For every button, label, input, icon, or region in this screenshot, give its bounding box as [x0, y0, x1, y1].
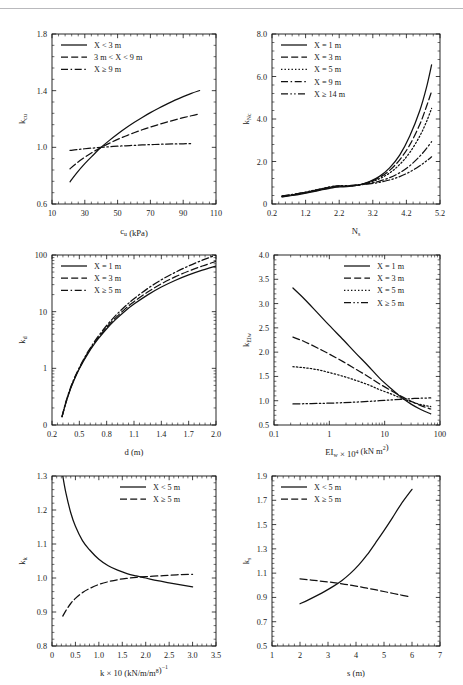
y-tick-label: 1.0 — [37, 574, 47, 583]
y-tick-label: 0.5 — [257, 642, 267, 651]
series-line — [282, 65, 432, 197]
legend-label: X ≥ 5 m — [314, 495, 342, 504]
y-axis-title: kd — [17, 336, 28, 343]
chart-kk: 00.51.01.52.02.53.03.50.80.91.01.11.21.3… — [14, 464, 229, 685]
chart-ks: 12345670.50.70.91.11.31.51.71.9X < 5 mX … — [238, 464, 453, 685]
y-axis-title: kEIw — [241, 332, 252, 347]
y-tick-label: 2.5 — [259, 324, 269, 333]
legend: X < 5 mX ≥ 5 m — [120, 483, 181, 504]
y-tick-label: 2.0 — [259, 348, 269, 357]
x-tick-label: 10 — [381, 430, 389, 439]
x-tick-label: 50 — [114, 209, 122, 218]
plot-frame — [274, 255, 440, 425]
series-group — [62, 255, 216, 417]
y-tick-label: 6.0 — [257, 73, 267, 82]
y-tick-label: 2.0 — [257, 158, 267, 167]
chart-kNc: 0.21.22.23.24.25.202.04.06.08.0X = 1 mX … — [238, 22, 453, 250]
y-tick-label: 3.0 — [259, 300, 269, 309]
series-line — [70, 91, 200, 182]
x-axis-title: k × 10 (kN/m/m8)−1 — [100, 664, 168, 678]
x-tick-label: 0.1 — [269, 430, 279, 439]
chart-kcu: 10305070901100.61.01.41.8X < 3 m3 m < X … — [14, 22, 229, 250]
legend-label: X ≥ 5 m — [377, 299, 405, 308]
x-axis-title: EIw × 104 (kN m2) — [325, 442, 388, 459]
axis-ticks: 0.20.50.81.11.41.72.00110100 — [35, 251, 221, 439]
y-tick-label: 1.1 — [257, 569, 267, 578]
subplot-kd: 0.20.50.81.11.41.72.00110100X = 1 mX = 3… — [14, 243, 229, 471]
top-divider-rule — [0, 8, 463, 9]
y-tick-label: 1.1 — [37, 540, 47, 549]
axis-ticks: 00.51.01.52.02.53.03.50.80.91.01.11.21.3 — [37, 472, 221, 660]
x-tick-label: 1.7 — [184, 430, 194, 439]
y-tick-label: 0.7 — [257, 618, 267, 627]
x-tick-label: 30 — [81, 209, 89, 218]
series-line — [282, 157, 432, 196]
subplot-kNc: 0.21.22.23.24.25.202.04.06.08.0X = 1 mX … — [238, 22, 453, 250]
x-tick-label: 1 — [327, 430, 331, 439]
y-axis-title: ks — [241, 557, 252, 564]
legend-label: X = 3 m — [94, 274, 122, 283]
y-tick-label: 0 — [43, 421, 47, 430]
y-tick-label: 1.7 — [257, 496, 267, 505]
series-line — [70, 144, 191, 151]
x-tick-label: 0.5 — [74, 430, 84, 439]
y-tick-label: 8.0 — [257, 30, 267, 39]
series-line — [282, 108, 432, 196]
x-tick-label: 1 — [270, 651, 274, 660]
series-line — [293, 337, 431, 409]
series-line — [62, 266, 216, 417]
series-line — [282, 142, 432, 196]
x-tick-label: 70 — [146, 209, 154, 218]
x-tick-label: 100 — [434, 430, 446, 439]
legend-label: X = 9 m — [314, 78, 342, 87]
subplot-ks: 12345670.50.70.91.11.31.51.71.9X < 5 mX … — [238, 464, 453, 685]
x-tick-label: 110 — [210, 209, 222, 218]
y-tick-label: 1.5 — [257, 521, 267, 530]
series-group — [70, 91, 200, 182]
series-line — [63, 574, 193, 616]
legend-label: X ≥ 14 m — [314, 90, 346, 99]
x-tick-label: 6 — [410, 651, 414, 660]
series-line — [300, 579, 409, 597]
chart-kd: 0.20.50.81.11.41.72.00110100X = 1 mX = 3… — [14, 243, 229, 471]
x-tick-label: 4 — [354, 651, 358, 660]
legend-label: X = 5 m — [377, 286, 405, 295]
series-group — [282, 65, 432, 197]
series-group — [293, 288, 431, 414]
subplot-kk: 00.51.01.52.02.53.03.50.80.91.01.11.21.3… — [14, 464, 229, 685]
y-tick-label: 0 — [263, 200, 267, 209]
x-axis-title: Ns — [352, 226, 361, 237]
legend-label: X ≥ 9 m — [94, 65, 122, 74]
series-line — [63, 476, 193, 587]
x-tick-label: 1.5 — [117, 651, 127, 660]
x-tick-label: 4.2 — [401, 209, 411, 218]
y-tick-label: 1.4 — [37, 87, 47, 96]
x-tick-label: 3.2 — [368, 209, 378, 218]
legend-label: X ≥ 5 m — [153, 495, 181, 504]
x-axis-title: d (m) — [125, 447, 144, 457]
legend-label: X = 1 m — [377, 262, 405, 271]
x-tick-label: 7 — [438, 651, 442, 660]
x-tick-label: 1.2 — [300, 209, 310, 218]
legend: X = 1 mX = 3 mX ≥ 5 m — [61, 262, 122, 295]
x-axis-title: cu (kPa) — [120, 226, 148, 238]
plot-frame — [272, 34, 440, 204]
legend-label: X = 3 m — [377, 274, 405, 283]
x-tick-label: 3.0 — [187, 651, 197, 660]
y-tick-label: 0.9 — [37, 608, 47, 617]
x-tick-label: 5 — [382, 651, 386, 660]
legend-label: X < 5 m — [153, 483, 181, 492]
legend-label: X ≥ 5 m — [94, 286, 122, 295]
legend-label: 3 m < X < 9 m — [94, 53, 143, 62]
plot-frame — [272, 476, 440, 646]
x-tick-label: 1.1 — [129, 430, 139, 439]
legend-label: X < 3 m — [94, 41, 122, 50]
axis-ticks: 0.21.22.23.24.25.202.04.06.08.0 — [257, 30, 445, 218]
x-tick-label: 2.0 — [211, 430, 221, 439]
x-tick-label: 2 — [298, 651, 302, 660]
y-tick-label: 0.6 — [37, 200, 47, 209]
y-tick-label: 1.0 — [259, 397, 269, 406]
y-tick-label: 3.5 — [259, 275, 269, 284]
figure-root: 10305070901100.61.01.41.8X < 3 m3 m < X … — [0, 0, 463, 685]
x-tick-label: 5.2 — [435, 209, 445, 218]
